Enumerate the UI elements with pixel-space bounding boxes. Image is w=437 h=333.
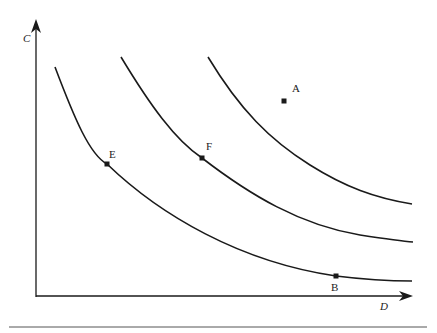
point-f-marker xyxy=(200,156,205,161)
middle-curve xyxy=(121,57,413,242)
point-b-label: B xyxy=(331,281,338,293)
point-f-label: F xyxy=(206,140,212,152)
point-b-marker xyxy=(334,274,339,279)
point-a-marker xyxy=(282,99,287,104)
upper-curve xyxy=(208,57,412,204)
point-a-label: A xyxy=(292,82,300,94)
y-axis-label: C xyxy=(23,32,31,44)
lower-curve xyxy=(55,67,412,281)
indifference-diagram: C D A B E F xyxy=(0,0,437,333)
x-axis-label: D xyxy=(379,300,388,312)
point-e-marker xyxy=(105,162,110,167)
point-e-label: E xyxy=(109,148,116,160)
